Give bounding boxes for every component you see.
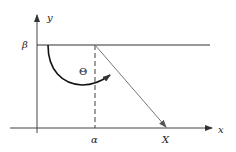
y-axis-label: y (46, 12, 53, 23)
X-label: X (161, 134, 170, 145)
alpha-label: α (91, 134, 98, 145)
theta-label: Θ (79, 66, 87, 77)
diagram-canvas: y x β α Θ X (0, 0, 236, 152)
ray-to-X (95, 45, 166, 127)
beta-label: β (21, 39, 28, 50)
x-axis-label: x (218, 124, 224, 135)
